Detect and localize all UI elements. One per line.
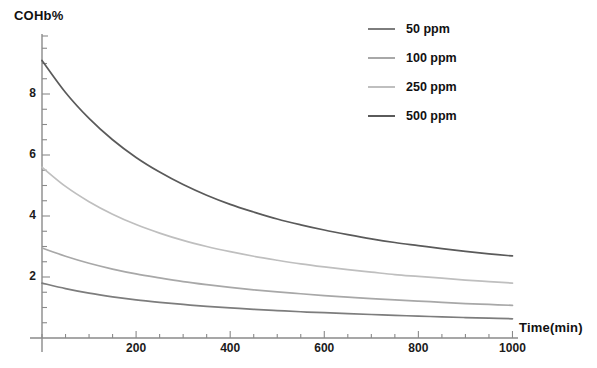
series-line-50-ppm [42, 283, 512, 319]
legend-swatch-line-icon [368, 57, 395, 59]
legend-item-label: 100 ppm [406, 51, 457, 65]
y-tick-label: 8 [14, 86, 36, 100]
legend-swatch-line-icon [368, 28, 395, 30]
y-tick-label: 2 [14, 269, 36, 283]
y-tick-label: 6 [14, 147, 36, 161]
x-tick-label: 400 [208, 341, 252, 355]
legend-item-500-ppm[interactable]: 500 ppm [368, 101, 538, 130]
chart-legend: 50 ppm100 ppm250 ppm500 ppm [368, 14, 538, 130]
x-tick-label: 1000 [490, 341, 534, 355]
series-line-250-ppm [42, 167, 512, 283]
legend-swatch-line-icon [368, 86, 395, 88]
legend-item-label: 50 ppm [406, 22, 450, 36]
legend-item-50-ppm[interactable]: 50 ppm [368, 14, 538, 43]
legend-item-label: 500 ppm [406, 109, 457, 123]
x-axis-title: Time(min) [519, 320, 583, 335]
x-tick-label: 800 [396, 341, 440, 355]
y-tick-label: 4 [14, 208, 36, 222]
legend-swatch-line-icon [368, 115, 395, 117]
legend-item-100-ppm[interactable]: 100 ppm [368, 43, 538, 72]
y-axis-title: COHb% [14, 8, 63, 23]
chart-figure: COHb% Time(min) 20040060080010002468 50 … [0, 0, 597, 368]
legend-item-label: 250 ppm [406, 80, 457, 94]
x-tick-label: 200 [114, 341, 158, 355]
legend-item-250-ppm[interactable]: 250 ppm [368, 72, 538, 101]
x-tick-label: 600 [302, 341, 346, 355]
